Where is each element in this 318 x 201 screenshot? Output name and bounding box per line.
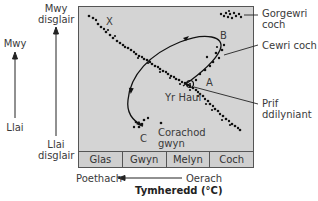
point-a-label: A [206,77,213,88]
main-sequence-label: Prif ddilyniant [262,98,312,120]
sun-label: Yr Haul [165,92,201,103]
luminosity-arrow-icon [13,52,18,118]
point-c-label: C [140,133,147,144]
supergiant-dots [220,10,242,19]
main-sequence-dots [88,15,242,132]
leader-lines [194,15,258,104]
point-b-label: B [220,30,227,41]
cooler-label: Oerach [186,173,222,184]
point-x-label: X [106,16,113,27]
brightness-arrow-icon [54,27,59,136]
white-dwarf-label: Corachod gwyn [158,127,200,149]
temperature-axis-title: Tymheredd (°C) [135,185,222,196]
supergiant-label: Gorgewri coch [262,8,312,30]
temperature-arrow-icon [118,176,182,181]
hotter-label: Poethach [76,173,122,184]
red-giant-label: Cewri coch [262,40,318,51]
